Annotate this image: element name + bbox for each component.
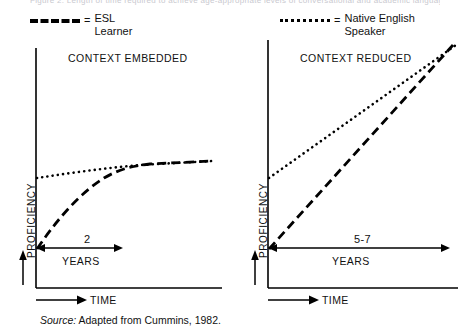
panel-context-reduced: CONTEXT REDUCED PROFICIENCY 5-7 YEARS xyxy=(232,0,470,334)
time-arrow-head-icon xyxy=(309,295,319,304)
plot-area-context-embedded xyxy=(0,0,235,334)
x-axis-label-time: TIME xyxy=(322,294,349,306)
x-axis-label-time: TIME xyxy=(90,294,117,306)
panel-context-embedded: CONTEXT EMBEDDED PROFICIENCY 2 YEARS T xyxy=(0,0,235,334)
y-axis-label-proficiency: PROFICIENCY xyxy=(258,183,269,258)
years-span-arrow-right-icon xyxy=(114,244,123,252)
y-axis-label-proficiency: PROFICIENCY xyxy=(26,183,37,258)
years-span-arrow-right-icon xyxy=(441,244,450,252)
years-span-value: 2 xyxy=(84,233,91,245)
series-line-esl-learner xyxy=(269,45,453,249)
years-span-unit: YEARS xyxy=(332,255,370,267)
plot-area-context-reduced xyxy=(232,0,470,334)
source-label: Source: xyxy=(40,314,76,326)
years-span-value: 5-7 xyxy=(354,233,371,245)
years-span-unit: YEARS xyxy=(62,255,100,267)
source-citation: Adapted from Cummins, 1982. xyxy=(76,314,221,326)
series-line-native-speaker xyxy=(269,45,456,178)
time-arrow-head-icon xyxy=(77,295,87,304)
source-line: Source: Adapted from Cummins, 1982. xyxy=(40,314,221,326)
figure-container: Figure 2. Length of time required to ach… xyxy=(0,0,470,334)
